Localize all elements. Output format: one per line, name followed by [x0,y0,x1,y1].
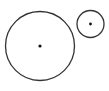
small-circle-center-dot [89,23,92,26]
two-circles-diagram [0,0,109,91]
large-circle-center-dot [38,44,41,47]
